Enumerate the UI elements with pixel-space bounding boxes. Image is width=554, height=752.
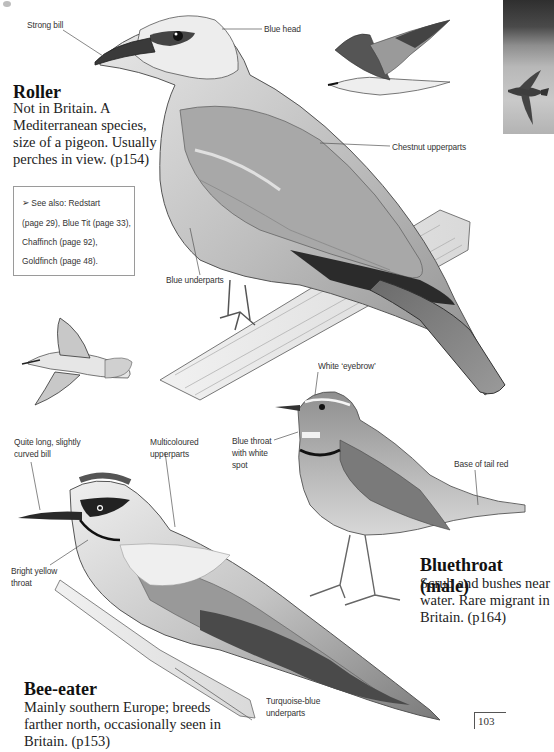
label-base-of-tail: Base of tail red (454, 458, 508, 470)
swallow-silhouette-icon (503, 0, 554, 134)
bluethroat-desc-line: Britain. (p164) (420, 609, 550, 626)
label-line: upperparts (150, 448, 199, 460)
label-line: Multicoloured (150, 436, 199, 448)
label-curved-bill: Quite long, slightly curved bill (14, 436, 81, 460)
field-guide-page: Strong bill Blue head Chestnut upperpart… (0, 0, 554, 752)
label-line: spot (232, 459, 271, 471)
bee-eater-desc-line: Britain. (p153) (24, 733, 221, 750)
roller-desc-line: size of a pigeon. Usually (13, 134, 157, 151)
roller-desc-line: perches in view. (p154) (13, 151, 157, 168)
label-strong-bill: Strong bill (27, 19, 63, 31)
see-also-line-2: (page 29), Blue Tit (page 33), (22, 217, 131, 229)
label-line: Turquoise-blue (266, 695, 320, 707)
label-multicoloured-upperparts: Multicoloured upperparts (150, 436, 199, 460)
roller-flight-illustration (328, 20, 450, 95)
label-line: throat (11, 577, 57, 589)
see-also-line-3: Chaffinch (page 92), (22, 236, 98, 248)
roller-description: Not in Britain. A Mediterranean species,… (13, 100, 157, 168)
bluethroat-description: Scrub and bushes near water. Rare migran… (420, 575, 550, 626)
bee-eater-desc-line: farther north, occasionally seen in (24, 716, 221, 733)
bee-eater-title: Bee-eater (24, 679, 97, 700)
label-line: Blue throat (232, 435, 271, 447)
swallow-photo (503, 0, 554, 134)
bee-eater-desc-line: Mainly southern Europe; breeds (24, 699, 221, 716)
see-also-line-4: Goldfinch (page 48). (22, 255, 98, 267)
label-line: Bright yellow (11, 565, 57, 577)
label-chestnut-upperparts: Chestnut upperparts (392, 141, 466, 153)
label-yellow-throat: Bright yellow throat (11, 565, 57, 589)
roller-desc-line: Not in Britain. A (13, 100, 157, 117)
bee-eater-description: Mainly southern Europe; breeds farther n… (24, 699, 221, 750)
see-also-box: ➢ See also: Redstart (page 29), Blue Tit… (13, 186, 135, 276)
arrow-bullet-icon: ➢ (22, 197, 31, 208)
bluethroat-desc-line: Scrub and bushes near (420, 575, 550, 592)
see-also-line-1: ➢ See also: Redstart (22, 197, 100, 209)
bee-eater-flight-illustration (22, 318, 132, 405)
label-white-eyebrow: White ‘eyebrow’ (318, 360, 376, 372)
label-blue-head: Blue head (264, 23, 301, 35)
bluethroat-desc-line: water. Rare migrant in (420, 592, 550, 609)
page-number: 103 (474, 712, 506, 729)
roller-desc-line: Mediterranean species, (13, 117, 157, 134)
label-turquoise-underparts: Turquoise-blue underparts (266, 695, 320, 719)
label-line: curved bill (14, 448, 81, 460)
label-line: with white (232, 447, 271, 459)
label-line: Quite long, slightly (14, 436, 81, 448)
label-blue-throat: Blue throat with white spot (232, 435, 271, 471)
label-line: underparts (266, 707, 320, 719)
label-blue-underparts: Blue underparts (166, 274, 224, 286)
